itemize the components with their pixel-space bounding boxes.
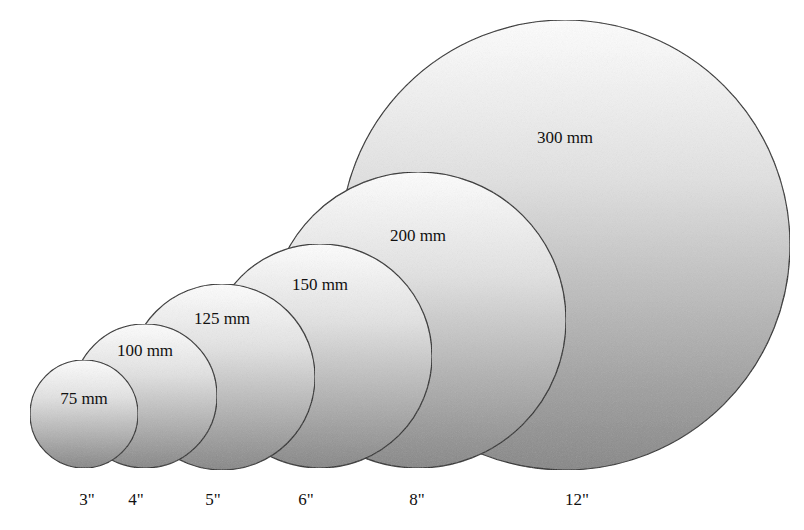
- wafer-inch-label: 8": [409, 490, 424, 509]
- wafer-metric-label: 75 mm: [60, 389, 108, 408]
- wafer-metric-label: 300 mm: [537, 128, 593, 147]
- wafer-metric-label: 100 mm: [117, 341, 173, 360]
- wafer-inch-label: 3": [79, 490, 94, 509]
- wafer-metric-label: 150 mm: [292, 275, 348, 294]
- wafer-inch-label: 6": [298, 490, 313, 509]
- wafer-inch-label: 4": [128, 490, 143, 509]
- wafer-group: 300 mm200 mm150 mm125 mm100 mm75 mm: [30, 20, 790, 470]
- wafer-size-diagram: 300 mm200 mm150 mm125 mm100 mm75 mm 3"4"…: [0, 0, 804, 530]
- wafer-metric-label: 200 mm: [390, 226, 446, 245]
- inch-label-group: 3"4"5"6"8"12": [79, 490, 589, 509]
- wafer-metric-label: 125 mm: [194, 309, 250, 328]
- wafer-circle: [30, 360, 138, 468]
- wafer-75mm: 75 mm: [30, 360, 138, 468]
- wafer-inch-label: 12": [565, 490, 589, 509]
- wafer-inch-label: 5": [205, 490, 220, 509]
